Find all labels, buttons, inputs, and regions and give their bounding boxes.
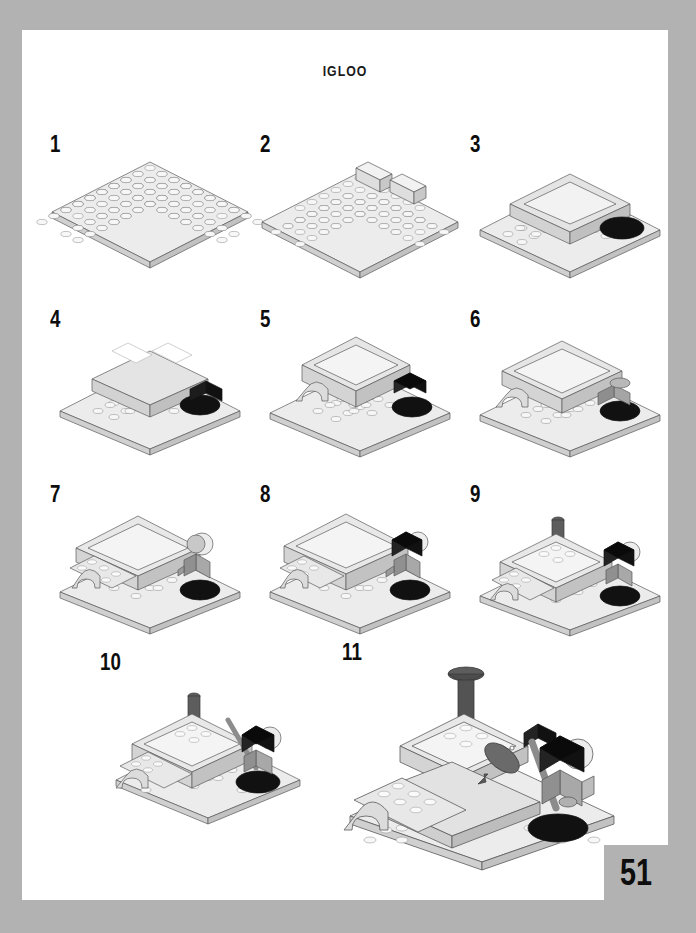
minifigure	[540, 736, 594, 807]
step-3-illustration	[470, 154, 676, 272]
step-11-number: 11	[342, 640, 362, 664]
step-11-illustration	[342, 662, 642, 872]
step-8-number: 8	[260, 482, 270, 506]
step-1-illustration	[50, 154, 256, 272]
step-4-illustration	[50, 329, 256, 447]
step-10-number: 10	[100, 650, 121, 674]
step-8-illustration	[260, 504, 466, 624]
page-number: 51	[620, 855, 652, 891]
step-6-illustration	[470, 329, 676, 447]
step-7-illustration	[50, 504, 256, 624]
step-7-number: 7	[50, 482, 60, 506]
step-3-number: 3	[470, 132, 480, 156]
page-number-badge: 51	[604, 845, 668, 900]
step-10-illustration	[100, 672, 320, 822]
final-steps-row: 10	[22, 630, 668, 880]
step-6-number: 6	[470, 307, 480, 331]
step-2-illustration	[260, 154, 466, 272]
manual-page: IGLOO 1	[22, 30, 668, 900]
step-grid: 1	[22, 92, 668, 652]
black-parts	[600, 401, 640, 421]
black-parts	[180, 580, 220, 600]
step-9-number: 9	[470, 482, 480, 506]
step-5-number: 5	[260, 307, 270, 331]
black-parts	[528, 814, 588, 842]
step-1-number: 1	[50, 132, 60, 156]
black-parts	[390, 580, 430, 600]
step-9-illustration	[470, 504, 676, 629]
step-5-illustration	[260, 329, 466, 447]
page-title: IGLOO	[80, 62, 610, 79]
black-plate	[600, 217, 644, 239]
step-2-number: 2	[260, 132, 270, 156]
black-parts	[600, 586, 640, 606]
black-parts	[236, 771, 280, 793]
step-4-number: 4	[50, 307, 60, 331]
